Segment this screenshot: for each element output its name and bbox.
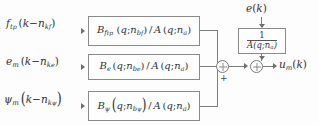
inverse-A-den-args: (q;n: [253, 40, 270, 50]
input-psi-base-sub: m: [12, 100, 19, 107]
output-paren-close: ): [303, 58, 307, 70]
block-Be-den: A: [151, 60, 158, 71]
arrow-force-to-block: [81, 28, 85, 34]
input-error-base-sub: m: [12, 62, 19, 69]
arrow-psi-to-block: [81, 103, 85, 109]
block-Be-num-sub: e: [107, 66, 111, 73]
input-label-force: ftp(k−nkf): [6, 18, 55, 31]
wire-Be-out: [200, 66, 217, 67]
block-diagram: ftp(k−nkf) em(k−nke) ψm(k−nkψ) Bftp(q;nb…: [0, 0, 319, 125]
sum-junction-1[interactable]: [216, 60, 229, 73]
input-force-minus: −: [29, 17, 38, 29]
output-base: u: [279, 58, 286, 70]
input-label-error: em(k−nke): [6, 56, 59, 69]
block-Bf[interactable]: Bftp(q;nbf)/A(q;na): [88, 16, 200, 46]
sum-junction-2[interactable]: [250, 60, 263, 73]
block-inverse-A[interactable]: 1 A(q;na): [238, 28, 286, 54]
arrow-sum1-to-sum2: [244, 63, 248, 69]
block-Bpsi-slash: /: [148, 100, 151, 111]
block-Bf-slash: /: [149, 24, 152, 35]
input-psi-paren-close: ): [57, 91, 62, 108]
arrow-noise-to-sum2: [259, 56, 265, 60]
block-Bpsi-num-sub: ψ: [105, 106, 110, 113]
block-Bpsi-num: B: [97, 100, 104, 111]
input-psi-paren-open: (: [21, 91, 26, 108]
block-Bpsi[interactable]: Bψ(q;nbψ)/A(q;na): [88, 91, 200, 121]
input-psi-delay: n: [41, 93, 48, 105]
input-error-delay: n: [40, 55, 47, 67]
inverse-A-fraction: 1 A(q;na): [247, 31, 277, 51]
noise-input-label: e(k): [246, 3, 267, 14]
block-Be-slash: /: [146, 60, 149, 71]
input-force-delay: n: [38, 17, 45, 29]
input-force-paren-close: ): [51, 17, 55, 29]
input-error-minus: −: [31, 55, 40, 67]
block-Be-num: B: [100, 60, 107, 71]
wire-Bf-out: [200, 30, 218, 31]
input-psi-minus: −: [32, 93, 41, 105]
inverse-A-den-close: ): [274, 40, 277, 50]
block-Bpsi-den: A: [154, 100, 161, 111]
input-psi-base: ψ: [4, 93, 12, 105]
input-error-paren-close: ): [55, 55, 59, 67]
block-Bf-num-sub3: p: [109, 30, 113, 36]
output-label: um(k): [279, 59, 307, 72]
block-Be[interactable]: Be(q;nbe)/A(q;na): [88, 54, 200, 80]
input-label-psi: ψm(k−nkψ): [4, 93, 62, 107]
arrow-error-to-block: [81, 64, 85, 70]
block-Bf-den: A: [154, 24, 161, 35]
arrow-output: [273, 63, 277, 69]
input-force-base-sub2: p: [13, 24, 17, 30]
inverse-A-denominator: A(q;na): [247, 41, 277, 51]
wire-Bpsi-out: [200, 106, 218, 107]
noise-paren-close: ): [263, 2, 267, 14]
sum-junction-1-plus-sign: +: [220, 74, 228, 83]
